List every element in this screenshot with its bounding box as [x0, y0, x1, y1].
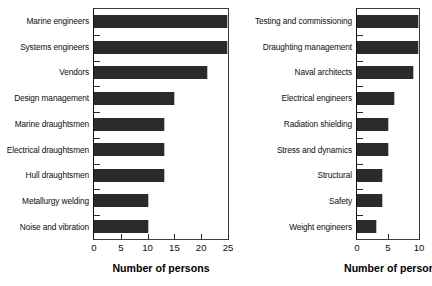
left-bar-series — [94, 9, 228, 239]
figure-container: Marine engineersSystems engineersVendors… — [0, 0, 432, 286]
x-tick — [228, 234, 229, 239]
bar — [357, 143, 389, 156]
category-label: Noise and vibration — [0, 214, 89, 240]
bar-row — [357, 137, 419, 163]
category-label: Draughting management — [236, 34, 352, 60]
x-tick — [419, 234, 420, 239]
left-category-axis: Marine engineersSystems engineersVendors… — [0, 8, 93, 240]
bar — [94, 220, 149, 233]
category-label: Radiation shielding — [236, 111, 352, 137]
category-label: Naval architects — [236, 60, 352, 86]
left-x-axis-title: Number of persons — [93, 262, 229, 274]
x-tick-label: 25 — [223, 241, 234, 255]
bar — [357, 220, 377, 233]
bar-row — [94, 162, 228, 188]
bar-row — [357, 214, 419, 240]
bar-row — [357, 162, 419, 188]
bar — [357, 41, 419, 54]
bar — [357, 15, 419, 28]
x-tick-label: 10 — [414, 241, 425, 255]
bar — [94, 41, 228, 54]
category-label: Safety — [236, 188, 352, 214]
chart-panel-right: Testing and commissioningDraughting mana… — [236, 0, 432, 286]
bar-row — [94, 60, 228, 86]
left-x-tick-labels: 0510152025 — [93, 241, 229, 255]
bar-row — [94, 137, 228, 163]
right-chart-area: Testing and commissioningDraughting mana… — [236, 8, 432, 240]
x-tick-label: 5 — [385, 241, 390, 255]
bar-row — [94, 111, 228, 137]
category-label: Design management — [0, 85, 89, 111]
bar — [94, 66, 208, 79]
bar — [94, 143, 165, 156]
left-chart-area: Marine engineersSystems engineersVendors… — [0, 8, 232, 240]
bar — [94, 92, 175, 105]
category-label: Electrical draughtsmen — [0, 137, 89, 163]
right-x-axis-title: Number of persons — [344, 262, 432, 274]
bar — [357, 92, 395, 105]
bar-row — [94, 86, 228, 112]
bar-row — [357, 188, 419, 214]
bar — [94, 15, 228, 28]
bar-row — [94, 214, 228, 240]
category-label: Marine draughtsmen — [0, 111, 89, 137]
x-tick-label: 10 — [142, 241, 153, 255]
category-label: Weight engineers — [236, 214, 352, 240]
category-label: Stress and dynamics — [236, 137, 352, 163]
right-category-axis: Testing and commissioningDraughting mana… — [236, 8, 356, 240]
x-tick-label: 5 — [118, 241, 123, 255]
bar — [357, 169, 383, 182]
bar-row — [94, 188, 228, 214]
category-label: Structural — [236, 163, 352, 189]
bar-row — [357, 60, 419, 86]
bar-row — [357, 111, 419, 137]
bar — [357, 66, 414, 79]
left-plot-area — [93, 8, 229, 240]
bar-row — [94, 35, 228, 61]
bar — [357, 194, 383, 207]
category-label: Systems engineers — [0, 34, 89, 60]
bar — [94, 169, 165, 182]
category-label: Hull draughtsmen — [0, 163, 89, 189]
bar — [357, 118, 389, 131]
category-label: Marine engineers — [0, 8, 89, 34]
category-label: Metallurgy welding — [0, 188, 89, 214]
x-tick-label: 15 — [169, 241, 180, 255]
x-tick-label: 0 — [91, 241, 96, 255]
bar — [94, 118, 165, 131]
category-label: Electrical engineers — [236, 85, 352, 111]
right-bar-series — [357, 9, 419, 239]
bar-row — [357, 9, 419, 35]
x-tick-label: 20 — [196, 241, 207, 255]
bar-row — [94, 9, 228, 35]
x-tick-label: 0 — [354, 241, 359, 255]
right-plot-area — [356, 8, 420, 240]
bar-row — [357, 86, 419, 112]
category-label: Testing and commissioning — [236, 8, 352, 34]
right-x-tick-labels: 0510 — [356, 241, 420, 255]
bar-row — [357, 35, 419, 61]
category-label: Vendors — [0, 60, 89, 86]
bar — [94, 194, 149, 207]
chart-panel-left: Marine engineersSystems engineersVendors… — [0, 0, 236, 286]
